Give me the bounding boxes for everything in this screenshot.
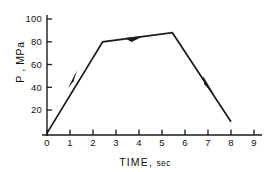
chart-figure: 100 80 60 40 20 0 1 2 3 4 5 6 7 8 9 P , … [0,0,275,172]
x-axis-title: TIME, sec [60,152,230,170]
x-tick-label-8: 8 [223,137,239,148]
arrow-unloading-icon [203,76,213,94]
x-axis-ticks [47,130,254,136]
x-axis-title-comma: , [149,156,152,168]
x-tick-label-5: 5 [154,137,170,148]
y-axis-title: P , MPa [14,23,26,101]
x-tick-label-0: 0 [39,137,55,148]
x-tick-label-2: 2 [85,137,101,148]
x-tick-label-1: 1 [62,137,78,148]
x-tick-label-3: 3 [108,137,124,148]
arrow-hold-icon [125,36,144,42]
x-tick-label-6: 6 [177,137,193,148]
x-axis-title-unit: sec [156,158,170,168]
y-tick-label-20: 20 [10,104,42,115]
x-axis-title-main: TIME [119,156,149,168]
data-line-pressure [47,33,231,133]
x-tick-label-4: 4 [131,137,147,148]
x-tick-label-9: 9 [246,137,262,148]
y-axis-ticks [47,19,52,110]
x-tick-label-7: 7 [200,137,216,148]
